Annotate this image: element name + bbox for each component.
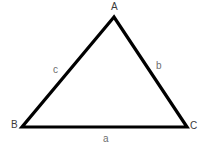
- vertex-label-b: B: [11, 120, 18, 130]
- triangle-shape: [0, 0, 207, 149]
- side-label-a: a: [103, 134, 109, 144]
- side-label-c: c: [53, 65, 58, 75]
- vertex-label-a: A: [111, 2, 118, 12]
- triangle-outline: [22, 17, 187, 127]
- side-label-b: b: [156, 61, 162, 71]
- vertex-label-c: C: [190, 121, 197, 131]
- triangle-diagram: A B C a b c: [0, 0, 207, 149]
